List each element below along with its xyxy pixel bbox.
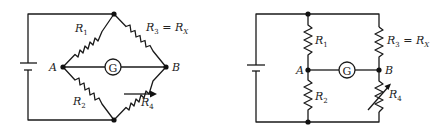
variable-resistor-r4-icon xyxy=(114,67,166,120)
node-b-dot xyxy=(163,64,168,69)
left-bottom-wire xyxy=(28,70,114,120)
node-top-dot xyxy=(111,11,116,16)
node-b-label: B xyxy=(384,64,393,77)
resistor-r3-icon xyxy=(375,27,383,70)
node-b-dot xyxy=(376,67,381,72)
node-a-dot xyxy=(305,67,310,72)
left-top-wire xyxy=(28,14,114,63)
r3-label: R3 = RX xyxy=(145,21,189,36)
wheatstone-bridge-figure: G A B R1 R3 = RX R2 R4 xyxy=(0,0,441,134)
r2-label: R2 xyxy=(72,95,86,110)
r1-label: R1 xyxy=(74,22,88,37)
galvanometer-label: G xyxy=(109,62,118,75)
r2-label: R2 xyxy=(314,90,328,105)
galvanometer-icon: G xyxy=(339,62,355,78)
battery-icon xyxy=(247,65,265,71)
node-a-label: A xyxy=(48,61,57,74)
resistor-r1-icon xyxy=(304,14,312,70)
galvanometer-label: G xyxy=(343,65,352,78)
node-a-dot xyxy=(60,64,65,69)
battery-icon xyxy=(20,63,37,70)
node-a-label: A xyxy=(295,64,304,77)
r4-label: R4 xyxy=(388,88,402,103)
resistor-r1-icon xyxy=(63,14,114,67)
resistor-r2-icon xyxy=(63,67,114,120)
node-bottom-dot xyxy=(305,119,310,124)
node-top-dot xyxy=(305,11,310,16)
r1-label: R1 xyxy=(314,34,328,49)
left-bridge-diagram: G A B R1 R3 = RX R2 R4 xyxy=(20,11,189,122)
right-bridge-diagram: G A B R1 R2 R3 = RX R4 xyxy=(247,11,430,124)
r3-label: R3 = RX xyxy=(386,34,430,49)
galvanometer-icon: G xyxy=(105,59,121,75)
r4-label: R4 xyxy=(140,96,154,111)
resistor-r2-icon xyxy=(304,70,312,122)
node-bottom-dot xyxy=(111,117,116,122)
node-b-label: B xyxy=(171,61,180,74)
